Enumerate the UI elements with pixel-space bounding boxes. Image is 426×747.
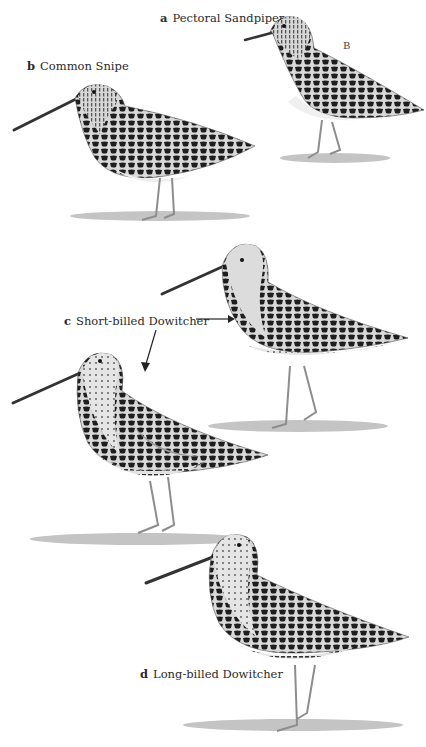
label-common-snipe: bCommon Snipe (27, 59, 129, 73)
common-snipe-illustration (10, 78, 260, 228)
pectoral-sandpiper-illustration (240, 10, 426, 170)
long-billed-dowitcher-illustration (143, 525, 426, 737)
label-letter: c (64, 314, 71, 328)
label-name: Common Snipe (40, 59, 129, 73)
short-billed-dowitcher-breeding-illustration (10, 343, 270, 553)
label-letter: a (160, 11, 167, 25)
label-letter: b (27, 59, 35, 73)
